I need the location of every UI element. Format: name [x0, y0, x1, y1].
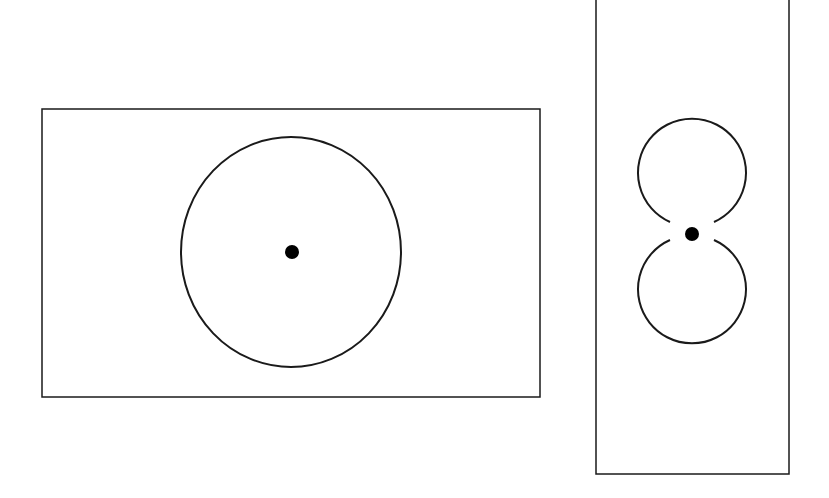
left-panel — [42, 109, 540, 397]
junction-dot — [685, 227, 699, 241]
lower-open-circle — [638, 240, 746, 343]
right-panel — [596, 0, 789, 474]
diagram-canvas — [0, 0, 829, 498]
upper-open-circle — [638, 119, 746, 222]
center-dot — [285, 245, 299, 259]
